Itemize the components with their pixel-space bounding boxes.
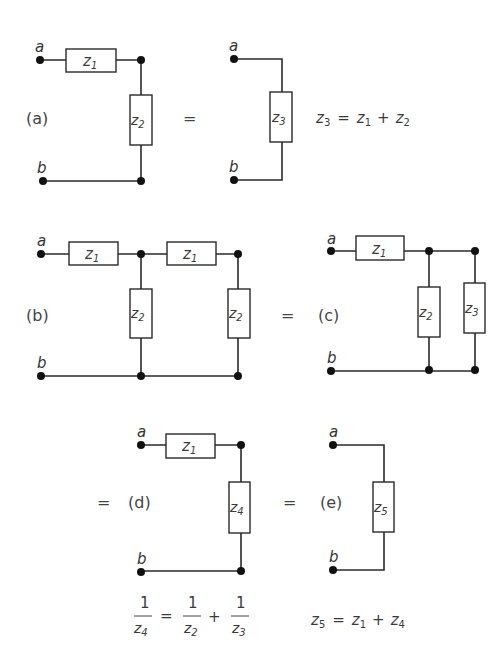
svg-text:1: 1: [236, 594, 246, 612]
terminal-a-node: [230, 55, 238, 63]
junction-node: [234, 372, 242, 380]
equals-sign: =: [283, 493, 296, 512]
terminal-b-node: [329, 566, 337, 574]
terminal-a-node: [327, 247, 335, 255]
circuit-diagram: a b z1 z2 (a) = a b z3 z3=z1+z2 a b z1 z…: [0, 0, 499, 664]
panel-label-e: (e): [320, 493, 342, 512]
terminal-a-label: a: [137, 423, 146, 441]
junction-node: [425, 366, 433, 374]
terminal-b-label: b: [229, 158, 239, 176]
equation-z5: z5=z1+z4: [310, 611, 405, 630]
terminal-b-label: b: [37, 159, 47, 177]
terminal-a-node: [329, 441, 337, 449]
circuit-b: a b z1 z1 z2 z2 (b) =: [26, 232, 294, 380]
terminal-b-label: b: [37, 354, 47, 372]
junction-node: [237, 441, 245, 449]
junction-node: [237, 567, 245, 575]
panel-label-b: (b): [26, 306, 49, 325]
equation-z3: z3=z1+z2: [315, 109, 410, 128]
equation-z4: 1 z4 = 1 z2 + 1 z3: [133, 594, 249, 638]
junction-node: [471, 366, 479, 374]
svg-text:z3: z3: [231, 620, 246, 638]
equals-sign: =: [183, 109, 196, 128]
junction-node: [137, 372, 145, 380]
terminal-a-label: a: [35, 38, 44, 56]
terminal-b-label: b: [329, 548, 339, 566]
terminal-a-node: [137, 441, 145, 449]
junction-node: [137, 56, 145, 64]
terminal-b-node: [37, 372, 45, 380]
panel-label-c: (c): [318, 306, 339, 325]
equals-sign: =: [97, 493, 110, 512]
terminal-a-label: a: [37, 232, 46, 250]
terminal-b-node: [39, 177, 47, 185]
circuit-d: a b z1 z4 = (d) = 1 z4 = 1 z2 + 1 z3: [97, 423, 296, 638]
terminal-b-label: b: [137, 550, 147, 568]
svg-text:1: 1: [188, 594, 198, 612]
equals-sign: =: [281, 306, 294, 325]
circuit-a: a b z1 z2 (a) =: [26, 38, 196, 185]
terminal-b-node: [230, 176, 238, 184]
svg-text:=: =: [160, 607, 173, 625]
junction-node: [137, 250, 145, 258]
junction-node: [234, 250, 242, 258]
terminal-a-node: [37, 250, 45, 258]
terminal-b-node: [137, 568, 145, 576]
terminal-a-node: [36, 56, 44, 64]
circuit-a-equivalent: a b z3 z3=z1+z2: [229, 37, 410, 184]
terminal-b-node: [327, 367, 335, 375]
junction-node: [471, 247, 479, 255]
panel-label-d: (d): [128, 493, 151, 512]
terminal-a-label: a: [327, 230, 336, 248]
junction-node: [425, 247, 433, 255]
circuit-c: a b z1 z2 z3 (c): [318, 230, 485, 375]
svg-text:z4: z4: [133, 620, 148, 638]
svg-text:1: 1: [140, 594, 150, 612]
svg-text:z2: z2: [183, 620, 198, 638]
terminal-a-label: a: [329, 423, 338, 441]
junction-node: [137, 177, 145, 185]
terminal-b-label: b: [327, 349, 337, 367]
circuit-e: a b z5 (e) z5=z1+z4: [310, 423, 405, 630]
svg-text:+: +: [208, 608, 221, 626]
panel-label-a: (a): [26, 109, 48, 128]
terminal-a-label: a: [229, 37, 238, 55]
